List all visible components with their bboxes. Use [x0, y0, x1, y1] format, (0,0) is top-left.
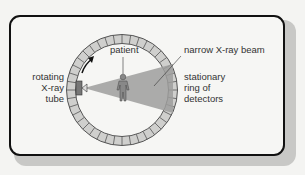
tube-label: rotating X-ray tube — [22, 71, 64, 104]
tube-label-line3: tube — [22, 93, 64, 104]
tube-label-line1: rotating — [22, 71, 64, 82]
beam-label: narrow X-ray beam — [184, 44, 265, 55]
patient-label: patient — [110, 44, 139, 55]
detectors-label-line1: stationary — [184, 71, 225, 82]
xray-tube-icon — [76, 81, 87, 95]
detectors-label-line3: detectors — [184, 93, 225, 104]
detectors-label: stationary ring of detectors — [184, 71, 225, 104]
tube-label-line2: X-ray — [22, 82, 64, 93]
detectors-label-line2: ring of — [184, 82, 225, 93]
